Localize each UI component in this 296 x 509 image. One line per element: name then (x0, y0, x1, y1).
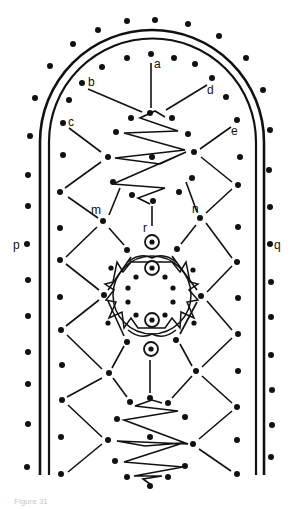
diagram-canvas: a b c d e m n p q r (0, 0, 296, 509)
bullseye-r (145, 235, 159, 249)
label-q: q (274, 238, 281, 252)
bullseye-lower (144, 342, 158, 356)
label-c: c (68, 115, 74, 129)
bullseye-ring-bottom (145, 313, 159, 327)
bullseye-ring-top (145, 261, 159, 275)
label-a: a (154, 57, 161, 71)
bullseye-markers (144, 235, 159, 356)
label-e: e (231, 124, 238, 138)
label-r: r (143, 221, 147, 235)
label-b: b (88, 75, 95, 89)
label-n: n (192, 202, 199, 216)
label-p: p (13, 238, 20, 252)
zigzag-lower (117, 400, 188, 484)
figure-caption: Figure 31 (14, 497, 48, 506)
label-m: m (91, 203, 101, 217)
label-d: d (207, 83, 214, 97)
